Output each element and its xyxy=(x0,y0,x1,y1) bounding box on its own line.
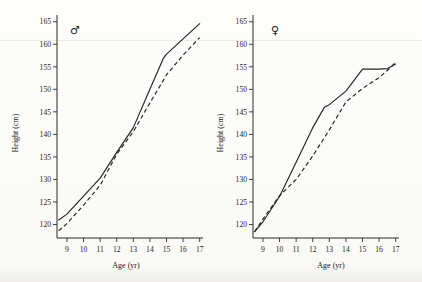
x-tick-label: 16 xyxy=(179,245,187,254)
curve-solid xyxy=(59,24,200,220)
y-tick-label: 160 xyxy=(40,40,52,49)
x-tick-label: 14 xyxy=(342,245,350,254)
axis-lines: 1201251301351401451501551601659101112131… xyxy=(40,15,204,254)
y-tick-label: 150 xyxy=(40,85,52,94)
y-tick-label: 145 xyxy=(236,108,248,117)
axis-lines: 1201251301351401451501551601659101112131… xyxy=(236,15,400,254)
y-tick-label: 135 xyxy=(40,153,52,162)
y-tick-label: 120 xyxy=(40,220,52,229)
x-tick-label: 10 xyxy=(80,245,88,254)
y-tick-label: 150 xyxy=(236,85,248,94)
chart-panel-female: 1201251301351401451501551601659101112131… xyxy=(211,0,422,282)
x-tick-label: 10 xyxy=(276,245,284,254)
y-tick-label: 140 xyxy=(236,130,248,139)
venus-symbol: ♀ xyxy=(271,24,279,37)
chart-panel-male: 1201251301351401451501551601659101112131… xyxy=(0,0,211,282)
y-tick-label: 165 xyxy=(40,17,52,26)
y-tick-label: 135 xyxy=(236,153,248,162)
x-tick-label: 15 xyxy=(359,245,367,254)
male-y-axis-title: Height (cm) xyxy=(11,113,20,152)
y-tick-label: 160 xyxy=(236,40,248,49)
y-tick-label: 155 xyxy=(236,63,248,72)
x-tick-label: 17 xyxy=(392,245,400,254)
curve-dashed xyxy=(255,61,396,231)
data-curves xyxy=(255,61,396,231)
page-bottom-shading xyxy=(0,266,422,282)
y-tick-label: 145 xyxy=(40,108,52,117)
y-tick-label: 165 xyxy=(236,17,248,26)
x-tick-label: 12 xyxy=(113,245,121,254)
x-tick-label: 17 xyxy=(196,245,204,254)
x-tick-label: 9 xyxy=(261,245,265,254)
x-tick-label: 11 xyxy=(96,245,104,254)
y-tick-label: 125 xyxy=(40,198,52,207)
figure-page: 1201251301351401451501551601659101112131… xyxy=(0,0,422,282)
x-tick-label: 12 xyxy=(309,245,317,254)
female-chart-svg: 1201251301351401451501551601659101112131… xyxy=(211,0,422,282)
y-tick-label: 140 xyxy=(40,130,52,139)
y-tick-label: 125 xyxy=(236,198,248,207)
y-tick-label: 120 xyxy=(236,220,248,229)
y-tick-label: 130 xyxy=(40,175,52,184)
x-tick-label: 13 xyxy=(130,245,138,254)
female-y-axis-title: Height (cm) xyxy=(216,113,225,152)
x-tick-label: 16 xyxy=(375,245,383,254)
mars-symbol: ♂ xyxy=(70,24,80,37)
curve-solid xyxy=(255,64,396,232)
x-tick-label: 14 xyxy=(146,245,154,254)
x-tick-label: 15 xyxy=(163,245,171,254)
data-curves xyxy=(59,24,200,231)
x-tick-label: 11 xyxy=(292,245,300,254)
male-chart-svg: 1201251301351401451501551601659101112131… xyxy=(0,0,211,282)
y-tick-label: 130 xyxy=(236,175,248,184)
x-tick-label: 9 xyxy=(65,245,69,254)
y-tick-label: 155 xyxy=(40,63,52,72)
x-tick-label: 13 xyxy=(326,245,334,254)
